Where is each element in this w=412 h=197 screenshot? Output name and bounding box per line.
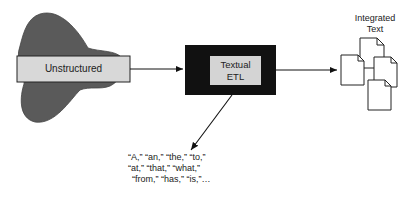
document-icon-stack [341,38,397,110]
output-label-line2: Text [340,24,410,35]
document-icon [341,55,364,85]
stopwords-line3: “from,” “has,” “is,”… [132,174,272,185]
document-icon [368,80,391,110]
output-label-line1: Integrated [340,13,410,24]
stopwords-line1: “A,” “an,” “the,” “to,” [128,152,268,163]
unstructured-label: Unstructured [17,63,130,74]
etl-label-line1: Textual [210,59,261,70]
etl-label-line2: ETL [210,71,261,82]
stopwords-line2: “at,” “that,” “what,” [128,163,268,174]
arrow-to-stopwords [191,95,232,150]
